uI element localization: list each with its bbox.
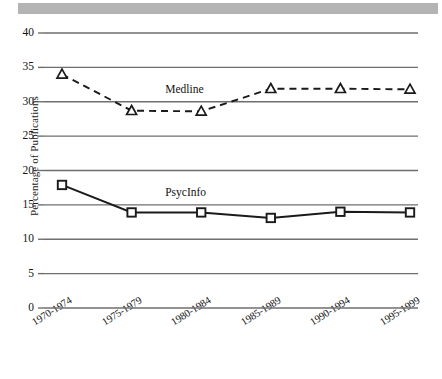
data-series-layer <box>57 69 415 222</box>
series-label-medline: Medline <box>165 83 203 95</box>
gridlines <box>38 33 418 308</box>
chart-container: Percentage of Publications 0510152025303… <box>0 0 442 379</box>
plot-area <box>0 0 442 379</box>
series-label-psycinfo: PsycInfo <box>165 186 206 198</box>
